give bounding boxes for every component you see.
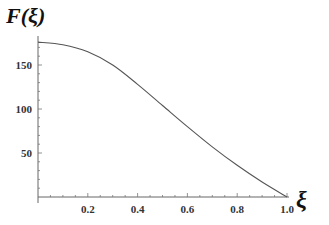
- axes: [38, 36, 289, 203]
- x-tick-label: 1.0: [280, 203, 294, 215]
- x-tick-label: 0.8: [230, 203, 244, 215]
- y-tick-label: 100: [16, 103, 33, 115]
- y-tick-label: 50: [21, 147, 33, 159]
- x-tick-label: 0.6: [181, 203, 195, 215]
- x-tick-label: 0.4: [131, 203, 145, 215]
- tick-labels: 0.20.40.60.81.050100150: [16, 59, 295, 215]
- plot-area: 0.20.40.60.81.050100150: [0, 0, 329, 225]
- data-curve: [38, 42, 287, 197]
- y-tick-label: 150: [16, 59, 33, 71]
- x-tick-label: 0.2: [81, 203, 95, 215]
